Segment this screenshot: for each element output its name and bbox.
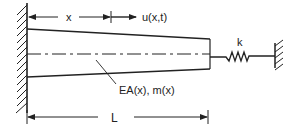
spring-stiffness-label: k (237, 36, 243, 48)
x-label: x (66, 11, 72, 23)
displacement-label: u(x,t) (142, 11, 167, 23)
spring: k (210, 36, 275, 61)
properties-annotation: EA(x), m(x) (96, 60, 175, 96)
length-dimension: L (27, 110, 208, 125)
properties-label: EA(x), m(x) (119, 84, 175, 96)
tapered-bar (27, 29, 210, 77)
x-coordinate-dimension: x u(x,t) (29, 11, 167, 23)
length-label: L (111, 111, 118, 125)
left-fixed-support (16, 3, 27, 113)
right-fixed-support (275, 40, 283, 70)
tapered-bar-diagram: x u(x,t) EA(x), m(x) k L (0, 0, 289, 133)
